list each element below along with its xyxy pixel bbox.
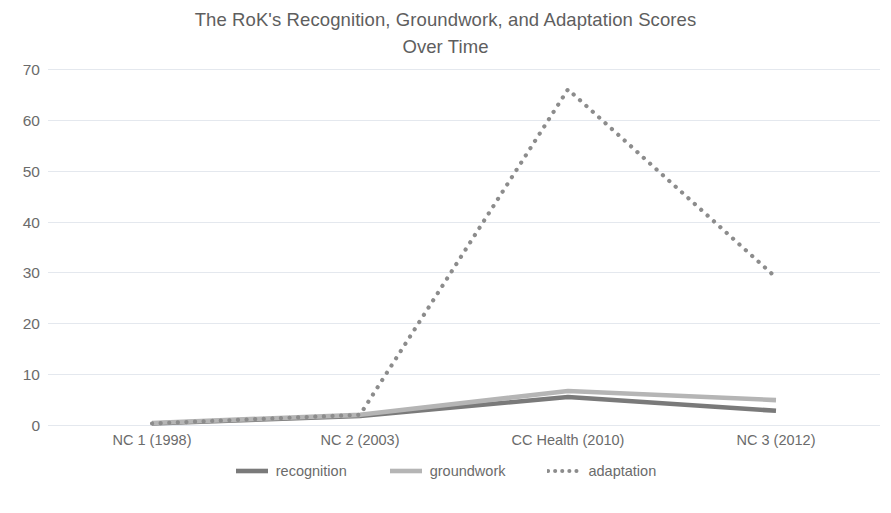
gridline-0	[48, 425, 880, 426]
x-axis: NC 1 (1998)NC 2 (2003)CC Health (2010)NC…	[48, 430, 880, 452]
x-axis-tick-3: NC 3 (2012)	[737, 430, 816, 450]
y-axis-tick-30: 30	[23, 264, 40, 281]
y-axis-tick-50: 50	[23, 162, 40, 179]
x-axis-tick-0: NC 1 (1998)	[113, 430, 192, 450]
chart-title: The RoK's Recognition, Groundwork, and A…	[0, 6, 891, 60]
y-axis-tick-60: 60	[23, 111, 40, 128]
y-axis-tick-0: 0	[31, 417, 40, 434]
plot-area	[48, 69, 880, 425]
y-axis: 010203040506070	[0, 69, 40, 425]
legend-item-adaptation[interactable]: adaptation	[547, 462, 656, 480]
y-axis-tick-40: 40	[23, 213, 40, 230]
series-line-adaptation	[152, 89, 776, 423]
chart-legend: recognitiongroundworkadaptation	[0, 462, 891, 480]
legend-item-recognition[interactable]: recognition	[235, 462, 347, 480]
legend-item-groundwork[interactable]: groundwork	[389, 462, 506, 480]
legend-swatch-adaptation-icon	[547, 466, 581, 476]
legend-label-recognition: recognition	[276, 462, 347, 480]
chart-container: The RoK's Recognition, Groundwork, and A…	[0, 0, 891, 513]
x-axis-tick-1: NC 2 (2003)	[321, 430, 400, 450]
series-lines	[48, 69, 880, 425]
y-axis-tick-10: 10	[23, 366, 40, 383]
legend-label-adaptation: adaptation	[588, 462, 656, 480]
x-axis-tick-2: CC Health (2010)	[512, 430, 625, 450]
y-axis-tick-20: 20	[23, 315, 40, 332]
legend-swatch-groundwork-icon	[389, 466, 423, 476]
legend-swatch-recognition-icon	[235, 466, 269, 476]
y-axis-tick-70: 70	[23, 61, 40, 78]
legend-label-groundwork: groundwork	[430, 462, 506, 480]
